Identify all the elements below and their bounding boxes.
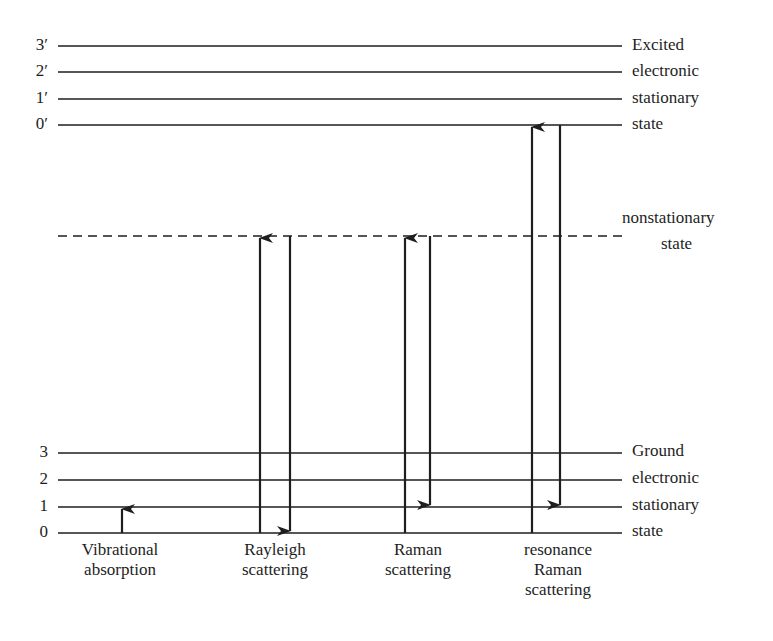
caption-line: Rayleigh (242, 540, 308, 560)
rayleigh-scattering-caption: Rayleigh scattering (242, 540, 308, 580)
ground-level-2-label: 2 (8, 470, 48, 488)
caption-line: Raman (524, 560, 592, 580)
ground-level-3-label: 3 (8, 443, 48, 461)
ground-state-label-line3: stationary (632, 496, 699, 514)
raman-scattering-caption: Raman scattering (385, 540, 451, 580)
caption-line: scattering (524, 580, 592, 600)
vibrational-absorption-caption: Vibrational absorption (82, 540, 158, 580)
ground-level-1-label: 1 (8, 497, 48, 515)
excited-state-label-line2: electronic (632, 62, 699, 80)
caption-line: resonance (524, 540, 592, 560)
caption-line: scattering (385, 560, 451, 580)
caption-line: Vibrational (82, 540, 158, 560)
nonstationary-label-line2: state (661, 235, 692, 253)
excited-level-1-label: 1′ (8, 89, 48, 107)
ground-level-0-label: 0 (8, 523, 48, 541)
ground-state-label-line4: state (632, 522, 663, 540)
resonance-raman-scattering-caption: resonance Raman scattering (524, 540, 592, 600)
excited-level-2-label: 2′ (8, 62, 48, 80)
caption-line: Raman (385, 540, 451, 560)
caption-line: scattering (242, 560, 308, 580)
ground-state-label-line2: electronic (632, 469, 699, 487)
excited-state-label-line3: stationary (632, 89, 699, 107)
excited-level-0-label: 0′ (8, 115, 48, 133)
nonstationary-label-line1: nonstationary (622, 209, 715, 227)
ground-state-label-line1: Ground (632, 442, 684, 460)
excited-state-label-line1: Excited (632, 36, 684, 54)
caption-line: absorption (82, 560, 158, 580)
excited-level-3-label: 3′ (8, 36, 48, 54)
excited-state-label-line4: state (632, 115, 663, 133)
